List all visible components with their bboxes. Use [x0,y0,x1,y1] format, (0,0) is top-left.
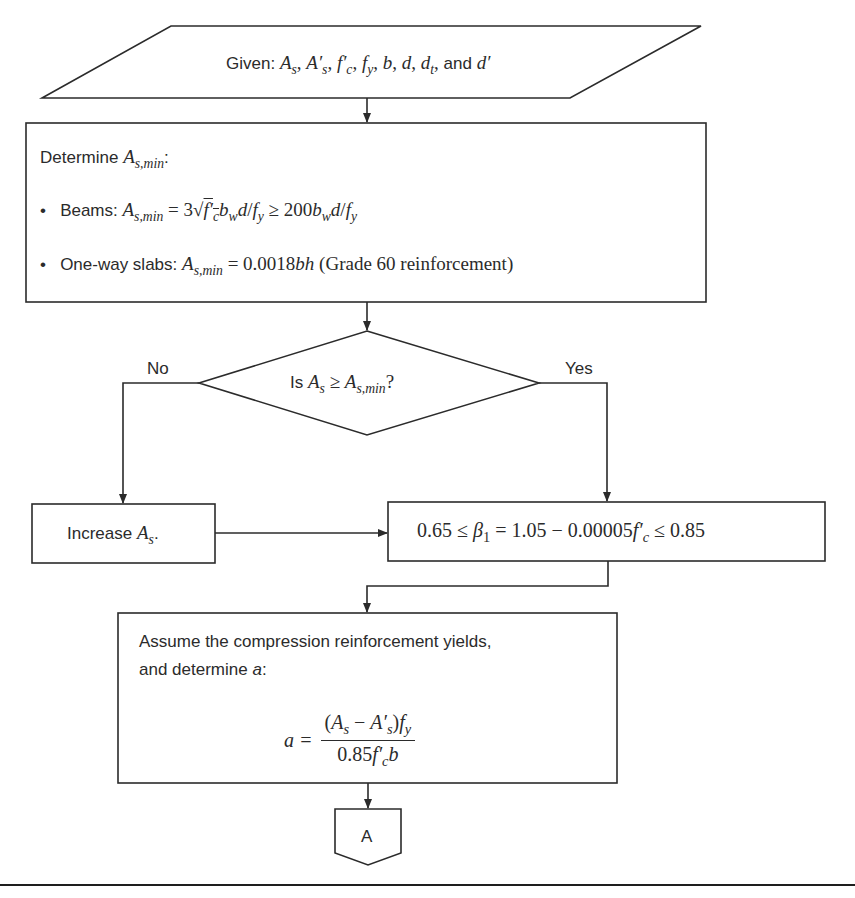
no-label: No [147,359,169,379]
bullet-beams: • Beams: As,min = 3√f′cbwd/fy ≥ 200bwd/f… [40,199,357,225]
a-symbol: a [252,660,261,679]
beta-formula: 0.65 ≤ β1 = 1.05 − 0.00005f′c ≤ 0.85 [417,519,705,546]
arrow-beta-to-assume [367,561,608,612]
determine-label: Determine [40,148,118,167]
increase-label: Increase [67,524,132,543]
bullet-icon: • [40,255,46,274]
beams-formula: As,min = 3√f′cbwd/fy ≥ 200bwd/fy [123,199,358,220]
assume-line1: Assume the compression reinforcement yie… [139,632,491,652]
equation-fraction: (As − A′s)fy 0.85f′cb [321,711,416,770]
decision-text: Is As ≥ As,min? [290,371,394,397]
input-vars: As, A′s, f′c, fy, b, d, dt, and d′ [280,52,491,73]
bullet-icon: • [40,201,46,220]
decision-condition: As ≥ As,min? [308,371,394,392]
as-symbol: As [137,522,154,543]
assume-line2-label: and determine [139,660,248,679]
yes-branch-line [539,383,607,501]
slabs-note: (Grade 60 reinforcement) [319,253,513,274]
bullet-slabs: • One-way slabs: As,min = 0.0018bh (Grad… [40,253,513,279]
determine-heading: Determine As,min: [40,146,169,172]
decision-is-label: Is [290,373,303,392]
slabs-label: One-way slabs: [60,255,177,274]
a-equation: a = (As − A′s)fy 0.85f′cb [284,711,415,770]
connector-label: A [361,827,372,847]
increase-text: Increase As. [67,522,159,548]
flowchart-shapes [0,0,855,898]
input-label: Given: [226,54,275,73]
yes-label: Yes [565,359,593,379]
no-branch-line [123,383,199,503]
beams-label: Beams: [60,201,118,220]
equation-denominator: 0.85f′cb [333,741,402,770]
assume-line2: and determine a: [139,660,267,680]
equation-numerator: (As − A′s)fy [321,711,416,741]
slabs-formula: As,min = 0.0018bh (Grade 60 reinforcemen… [182,253,513,274]
flowchart: Given: As, A′s, f′c, fy, b, d, dt, and d… [0,0,855,898]
asmin-symbol: As,min [123,146,164,167]
input-text: Given: As, A′s, f′c, fy, b, d, dt, and d… [226,52,490,78]
equation-lhs: a = [284,729,313,752]
